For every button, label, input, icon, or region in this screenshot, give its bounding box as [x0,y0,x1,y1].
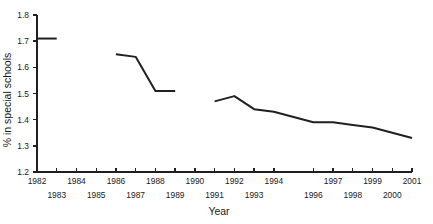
x-tick-label: 1993 [245,190,264,200]
x-tick-labels-bottom-row: 198319851987198919911993199619982000 [47,190,401,200]
data-series [37,39,412,138]
x-tick-label: 1997 [324,176,343,186]
y-tick-label: 1.5 [17,89,29,99]
chart-container: 1.81.71.61.51.41.31.2 198219841986198819… [0,0,433,224]
series-segment-1 [116,54,175,91]
x-tick-label: 1984 [67,176,86,186]
x-tick-label: 1994 [265,176,284,186]
x-tick-label: 1983 [47,190,66,200]
y-axis-title: % in special schools [1,53,13,148]
x-tick-label: 1989 [166,190,185,200]
x-tick-label: 2000 [383,190,402,200]
x-tick-label: 1990 [186,176,205,186]
x-tick-label: 1991 [205,190,224,200]
x-tick-label: 1999 [363,176,382,186]
x-tick-label: 1996 [304,190,323,200]
line-chart: 1.81.71.61.51.41.31.2 198219841986198819… [0,0,433,224]
x-tick-labels-top-row: 1982198419861988199019921994199719992001 [28,176,422,186]
x-axis-title: Year [208,205,230,217]
x-tick-label: 1985 [87,190,106,200]
y-tick-labels: 1.81.71.61.51.41.31.2 [17,10,29,177]
y-tick-label: 1.7 [17,36,29,46]
y-tick-label: 1.4 [17,115,29,125]
y-tick-label: 1.6 [17,62,29,72]
x-tick-label: 2001 [403,176,422,186]
y-tick-label: 1.3 [17,141,29,151]
y-axis [33,15,37,172]
x-axis [37,168,412,172]
x-tick-label: 1982 [28,176,47,186]
x-tick-label: 1987 [126,190,145,200]
series-segment-2 [215,96,412,138]
x-tick-label: 1998 [343,190,362,200]
x-tick-label: 1986 [107,176,126,186]
y-tick-label: 1.8 [17,10,29,20]
x-tick-label: 1988 [146,176,165,186]
x-tick-label: 1992 [225,176,244,186]
